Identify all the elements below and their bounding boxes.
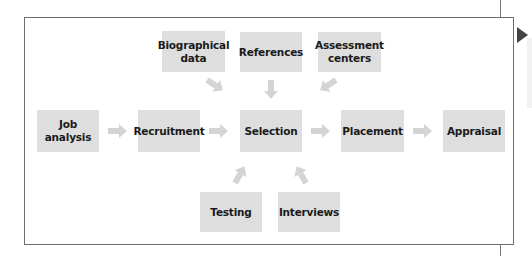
node-testing: Testing <box>200 192 262 232</box>
arrow-right-icon <box>209 124 228 138</box>
node-recruitment: Recruitment <box>138 110 200 152</box>
node-label: References <box>239 46 303 59</box>
node-selection: Selection <box>240 110 302 152</box>
node-label: Recruitment <box>133 125 204 138</box>
arrow-diagonal-up-left-icon <box>290 163 312 186</box>
node-label: Interviews <box>279 206 339 219</box>
node-biographical-data: Biographical data <box>162 31 225 72</box>
node-references: References <box>240 32 302 72</box>
arrow-right-icon <box>108 124 127 138</box>
node-placement: Placement <box>341 110 404 152</box>
node-assessment-centers: Assessment centers <box>318 32 381 72</box>
node-interviews: Interviews <box>278 192 340 232</box>
arrow-diagonal-down-right-icon <box>203 74 227 96</box>
node-appraisal: Appraisal <box>443 110 505 152</box>
node-job-analysis: Job analysis <box>37 110 99 152</box>
node-label: Testing <box>210 206 251 219</box>
arrow-right-icon <box>311 124 330 138</box>
node-label: Biographical data <box>158 39 230 65</box>
node-label: Selection <box>244 125 297 138</box>
arrow-diagonal-up-right-icon <box>229 163 251 186</box>
arrow-right-icon <box>413 124 432 138</box>
node-label: Job analysis <box>45 118 92 144</box>
arrow-down-icon <box>264 80 278 99</box>
arrow-diagonal-down-left-icon <box>316 74 340 96</box>
node-label: Placement <box>342 125 402 138</box>
node-label: Appraisal <box>447 125 501 138</box>
node-label: Assessment centers <box>315 39 384 65</box>
